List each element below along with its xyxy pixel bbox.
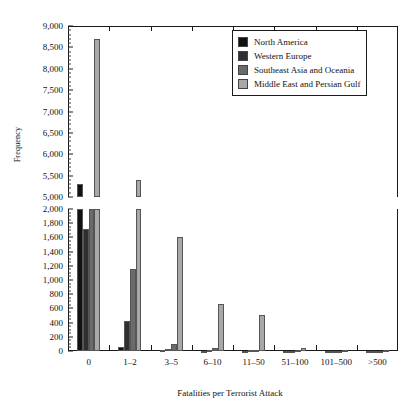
y-minor-tick: [68, 340, 71, 341]
y-tick-label: 200: [50, 332, 64, 342]
y-axis-title: Frequency: [13, 100, 22, 190]
y-tick-lower: [68, 351, 73, 352]
bar-upper: [136, 180, 142, 197]
y-tick-upper: [68, 197, 73, 198]
y-tick-lower: [68, 308, 73, 309]
y-tick-label: 5,500: [43, 171, 63, 181]
y-minor-tick: [68, 272, 71, 273]
legend-item: Southeast Asia and Oceania: [238, 63, 360, 77]
y-minor-tick: [68, 38, 71, 39]
x-tick-top: [192, 26, 193, 31]
y-minor-tick: [68, 290, 71, 291]
x-tick-label: 11–50: [243, 357, 265, 367]
bar-middle-east-and-persian-gulf: [383, 350, 389, 352]
y-minor-tick: [68, 258, 71, 259]
y-minor-tick: [68, 212, 71, 213]
x-tick: [192, 345, 193, 350]
y-minor-tick: [68, 315, 71, 316]
y-minor-tick: [68, 333, 71, 334]
x-tick-label: 6–10: [203, 357, 221, 367]
y-minor-tick: [68, 226, 71, 227]
y-minor-tick: [68, 34, 71, 35]
x-tick-label: 1–2: [123, 357, 137, 367]
y-minor-tick: [68, 255, 71, 256]
y-minor-tick: [68, 124, 71, 125]
y-tick-label: 7,500: [43, 85, 63, 95]
legend-item: North America: [238, 35, 360, 49]
axis-right-upper: [397, 26, 398, 197]
y-minor-tick: [68, 304, 71, 305]
y-minor-tick: [68, 55, 71, 56]
y-tick-lower: [68, 209, 73, 210]
bar-middle-east-and-persian-gulf: [259, 315, 265, 351]
y-minor-tick: [68, 240, 71, 241]
x-tick: [233, 345, 234, 350]
y-minor-tick: [68, 64, 71, 65]
legend-swatch-icon: [238, 79, 248, 89]
y-minor-tick: [68, 262, 71, 263]
y-tick-label: 400: [50, 318, 64, 328]
y-minor-tick: [68, 311, 71, 312]
y-minor-tick: [68, 326, 71, 327]
y-minor-tick: [68, 301, 71, 302]
x-tick: [357, 345, 358, 350]
y-minor-tick: [68, 244, 71, 245]
y-minor-tick: [68, 319, 71, 320]
y-tick-label: 600: [50, 303, 64, 313]
y-minor-tick: [68, 137, 71, 138]
legend-label: Middle East and Persian Gulf: [254, 80, 360, 89]
y-minor-tick: [68, 73, 71, 74]
bar-middle-east-and-persian-gulf: [301, 348, 307, 351]
y-tick-upper: [68, 111, 73, 112]
y-minor-tick: [68, 230, 71, 231]
y-minor-tick: [68, 297, 71, 298]
x-tick: [274, 345, 275, 350]
x-tick-top: [151, 26, 152, 31]
y-minor-tick: [68, 192, 71, 193]
y-minor-tick: [68, 167, 71, 168]
legend-item: Western Europe: [238, 49, 360, 63]
y-tick-label: 9,000: [43, 21, 63, 31]
y-tick-upper: [68, 175, 73, 176]
bar-middle-east-and-persian-gulf: [218, 304, 224, 351]
y-tick-upper: [68, 90, 73, 91]
x-axis-title: Fatalities per Terrorist Attack: [0, 388, 418, 398]
y-minor-tick: [68, 343, 71, 344]
y-tick-lower: [68, 280, 73, 281]
y-minor-tick: [68, 102, 71, 103]
y-tick-lower: [68, 251, 73, 252]
y-tick-label: 8,000: [43, 64, 63, 74]
y-minor-tick: [68, 120, 71, 121]
y-minor-tick: [68, 60, 71, 61]
y-tick-lower: [68, 265, 73, 266]
x-tick-label: 51–100: [281, 357, 308, 367]
y-tick-label: 1,000: [43, 275, 63, 285]
y-tick-upper: [68, 47, 73, 48]
y-tick-lower: [68, 237, 73, 238]
legend-swatch-icon: [238, 51, 248, 61]
x-tick-label: 3–5: [164, 357, 178, 367]
y-tick-label: 800: [50, 289, 64, 299]
y-minor-tick: [68, 77, 71, 78]
legend-swatch-icon: [238, 37, 248, 47]
y-minor-tick: [68, 276, 71, 277]
x-tick-label: 0: [86, 357, 91, 367]
y-minor-tick: [68, 128, 71, 129]
x-tick: [316, 345, 317, 350]
y-tick-label: 7,000: [43, 107, 63, 117]
legend-label: Western Europe: [254, 52, 312, 61]
y-minor-tick: [68, 94, 71, 95]
bar-middle-east-and-persian-gulf: [342, 350, 348, 352]
y-minor-tick: [68, 81, 71, 82]
y-minor-tick: [68, 145, 71, 146]
chart-legend: North AmericaWestern EuropeSoutheast Asi…: [232, 30, 367, 96]
y-minor-tick: [68, 179, 71, 180]
y-minor-tick: [68, 188, 71, 189]
y-minor-tick: [68, 51, 71, 52]
legend-label: North America: [254, 38, 308, 47]
y-minor-tick: [68, 149, 71, 150]
y-minor-tick: [68, 347, 71, 348]
y-tick-label: 1,600: [43, 232, 63, 242]
y-minor-tick: [68, 30, 71, 31]
y-minor-tick: [68, 216, 71, 217]
